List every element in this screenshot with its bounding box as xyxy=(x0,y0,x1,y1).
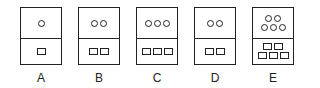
squares-section xyxy=(79,38,119,64)
square-icon xyxy=(274,43,283,50)
square-row xyxy=(205,48,225,55)
circles-section xyxy=(21,8,61,39)
circle-icon xyxy=(38,20,45,27)
circle-icon xyxy=(154,20,161,27)
circle-row xyxy=(91,20,107,27)
circle-icon xyxy=(216,20,223,27)
square-icon xyxy=(280,52,289,59)
circle-icon xyxy=(163,20,170,27)
circles-section xyxy=(79,8,119,39)
circle-icon xyxy=(207,20,214,27)
panel-label: A xyxy=(20,71,62,85)
panel-e xyxy=(252,7,294,65)
circle-row xyxy=(265,15,281,22)
circle-icon xyxy=(265,15,272,22)
circle-icon xyxy=(100,20,107,27)
circles-section xyxy=(137,8,177,39)
circle-row xyxy=(207,20,223,27)
circle-row xyxy=(261,24,286,31)
circle-icon xyxy=(270,24,277,31)
circle-icon xyxy=(274,15,281,22)
square-icon xyxy=(269,52,278,59)
square-icon xyxy=(89,48,98,55)
circle-row xyxy=(38,20,45,27)
panel-c xyxy=(136,7,178,65)
circle-icon xyxy=(261,24,268,31)
panel-label: B xyxy=(78,71,120,85)
circles-section xyxy=(195,8,235,39)
square-row xyxy=(37,48,46,55)
circles-section xyxy=(253,8,293,39)
square-icon xyxy=(258,52,267,59)
square-icon xyxy=(263,43,272,50)
square-row xyxy=(258,52,289,59)
circle-icon xyxy=(145,20,152,27)
circle-row xyxy=(145,20,170,27)
square-row xyxy=(263,43,283,50)
square-icon xyxy=(37,48,46,55)
circle-icon xyxy=(279,24,286,31)
panel-label: E xyxy=(252,71,294,85)
panel-a xyxy=(20,7,62,65)
square-row xyxy=(89,48,109,55)
square-icon xyxy=(164,48,173,55)
square-icon xyxy=(216,48,225,55)
squares-section xyxy=(195,38,235,64)
square-icon xyxy=(205,48,214,55)
panel-d xyxy=(194,7,236,65)
squares-section xyxy=(137,38,177,64)
squares-section xyxy=(21,38,61,64)
square-icon xyxy=(142,48,151,55)
square-icon xyxy=(100,48,109,55)
squares-section xyxy=(253,38,293,64)
panel-label: D xyxy=(194,71,236,85)
square-row xyxy=(142,48,173,55)
square-icon xyxy=(153,48,162,55)
circle-icon xyxy=(91,20,98,27)
panel-label: C xyxy=(136,71,178,85)
panel-b xyxy=(78,7,120,65)
